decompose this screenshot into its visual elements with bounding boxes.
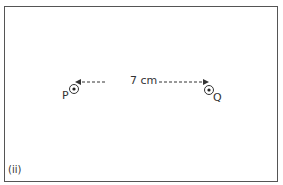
point-q-label: Q [213, 91, 222, 104]
panel-label: (ii) [8, 164, 21, 175]
distance-label: 7 cm [129, 74, 158, 87]
diagram-canvas [0, 0, 283, 185]
point-p-marker-icon [70, 85, 79, 94]
point-p-label: P [62, 89, 69, 102]
